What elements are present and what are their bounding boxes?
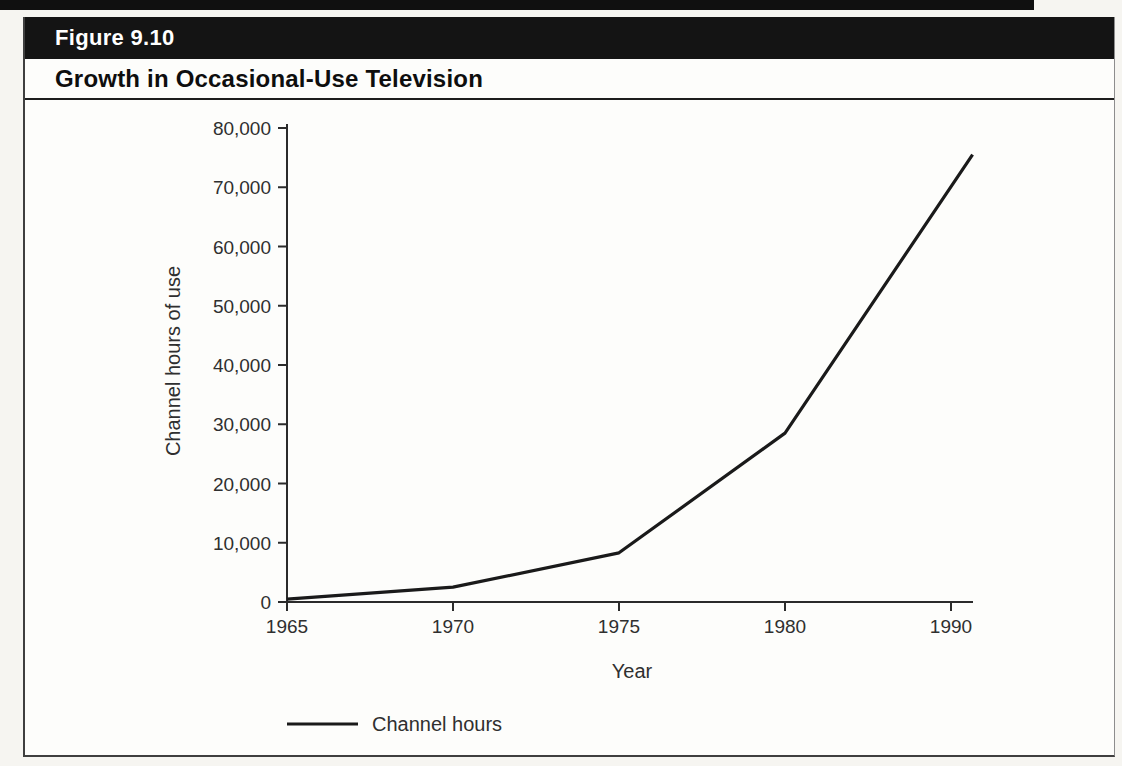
x-tick-label: 1970	[432, 616, 474, 637]
x-tick-label: 1965	[266, 616, 308, 637]
y-tick-label: 10,000	[213, 533, 271, 554]
figure-title-bar: Growth in Occasional-Use Television	[25, 59, 1114, 100]
x-axis-title: Year	[612, 660, 653, 682]
y-tick-label: 50,000	[213, 296, 271, 317]
y-tick-label: 70,000	[213, 177, 271, 198]
y-tick-label: 40,000	[213, 355, 271, 376]
x-tick-label: 1980	[764, 616, 806, 637]
figure-title: Growth in Occasional-Use Television	[55, 65, 483, 93]
legend-label: Channel hours	[372, 713, 502, 735]
line-chart: 010,00020,00030,00040,00050,00060,00070,…	[25, 100, 1114, 755]
figure-label: Figure 9.10	[55, 25, 174, 51]
figure-label-bar: Figure 9.10	[25, 17, 1114, 59]
data-line-channel-hours	[287, 155, 973, 599]
chart-area: 010,00020,00030,00040,00050,00060,00070,…	[25, 100, 1114, 755]
scan-artifact-top	[0, 0, 1034, 10]
y-axis-title: Channel hours of use	[162, 266, 184, 456]
y-tick-label: 30,000	[213, 414, 271, 435]
figure-panel: Figure 9.10 Growth in Occasional-Use Tel…	[23, 17, 1115, 757]
x-tick-label: 1990	[930, 616, 972, 637]
y-tick-label: 0	[260, 592, 271, 613]
y-tick-label: 80,000	[213, 118, 271, 139]
y-tick-label: 20,000	[213, 474, 271, 495]
y-tick-label: 60,000	[213, 237, 271, 258]
x-tick-label: 1975	[598, 616, 640, 637]
